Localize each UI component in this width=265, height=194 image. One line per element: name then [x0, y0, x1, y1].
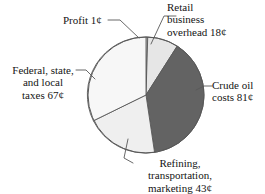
- slice-label-line: costs 81¢: [212, 91, 264, 103]
- slice-label-federal-state-local-taxes: Federal, state, and local taxes 67¢: [2, 64, 84, 101]
- slice-label-line: Refining,: [124, 157, 236, 169]
- pie-chart-figure: Retail business overhead 18¢ Profit 1¢ F…: [0, 0, 265, 194]
- slice-label-line: Profit 1¢: [63, 14, 102, 26]
- slice-label-line: Crude oil: [212, 79, 264, 91]
- slice-label-line: business: [167, 13, 263, 25]
- slice-label-line: and local: [2, 76, 84, 88]
- slice-label-profit: Profit 1¢: [63, 14, 102, 26]
- slice-label-line: overhead 18¢: [167, 26, 263, 38]
- slice-label-line: Retail: [167, 1, 263, 13]
- slice-label-line: transportation,: [124, 169, 236, 181]
- slice-label-line: marketing 43¢: [124, 182, 236, 194]
- slice-label-line: Federal, state,: [2, 64, 84, 76]
- slice-label-refining-transportation-marketing: Refining, transportation, marketing 43¢: [124, 157, 236, 194]
- slice-label-line: taxes 67¢: [2, 89, 84, 101]
- slice-label-crude-oil-costs: Crude oil costs 81¢: [212, 79, 264, 104]
- leader-line-profit: [108, 20, 139, 38]
- slice-label-retail-business-overhead: Retail business overhead 18¢: [167, 1, 263, 38]
